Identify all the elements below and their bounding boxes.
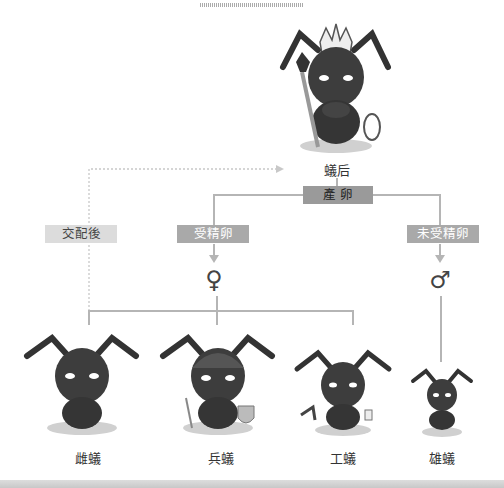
female-symbol-icon: ♀ [199,266,229,294]
mating-box: 交配後 [45,225,117,243]
queen-ant-icon [278,22,394,157]
caste-label-soldier: 兵蟻 [191,448,251,467]
queen-label: 蟻后 [317,160,357,179]
caste-label-worker: 工蟻 [313,448,373,467]
unfertilized-egg-box: 未受精卵 [407,225,479,243]
male-ant-icon [410,365,474,440]
bottom-decoration [0,480,504,488]
fertilized-egg-box: 受精卵 [177,225,249,243]
caste-label-male: 雄蟻 [412,448,472,467]
female-ant-icon [22,328,142,438]
caste-label-female: 雌蟻 [58,448,118,467]
worker-ant-icon [293,345,393,440]
soldier-ant-icon [158,328,278,438]
male-symbol-icon: ♂ [425,266,455,294]
lay-eggs-box: 產 卵 [303,186,373,204]
